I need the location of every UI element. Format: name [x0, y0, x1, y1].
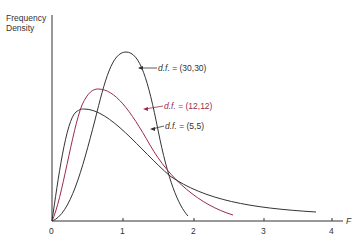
- curve-df-30-30: [52, 52, 188, 221]
- y-axis-label-line1: Frequency: [6, 13, 47, 23]
- annotation-df-5-5: d.f. = (5,5): [165, 121, 204, 131]
- annotation-df-30-30: d.f. = (30,30): [158, 63, 207, 73]
- f-distribution-chart: Frequency Density F 0 1 2 3 4 d.f. = (30…: [0, 0, 363, 248]
- y-axis-label-line2: Density: [6, 23, 35, 33]
- tick-label-0: 0: [49, 226, 54, 236]
- annotation-df-12-12: d.f. = (12,12): [164, 101, 213, 111]
- tick-label-1: 1: [120, 226, 125, 236]
- tick-label-2: 2: [191, 226, 196, 236]
- x-axis-label: F: [346, 216, 352, 226]
- tick-label-4: 4: [329, 226, 334, 236]
- tick-label-3: 3: [261, 226, 266, 236]
